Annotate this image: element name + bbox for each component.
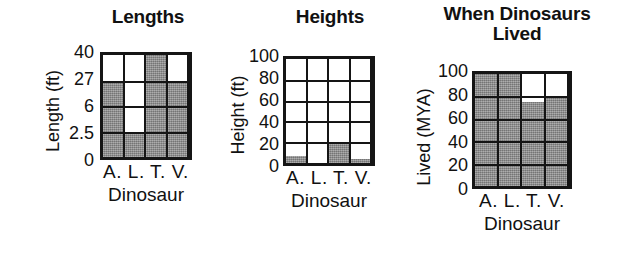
chart-when-dinosaurs-lived-title: When Dinosaurs Lived <box>422 4 612 44</box>
bar-lengths-v <box>168 81 188 158</box>
chart-heights-x-tick-labels: A. L. T. V. <box>275 167 383 188</box>
chart-heights-plot-area <box>283 56 375 166</box>
y-tick-label: 40 <box>259 116 279 128</box>
bar-column-v <box>351 59 373 163</box>
y-tick-label: 6 <box>84 100 94 112</box>
y-tick-label: 60 <box>448 112 468 124</box>
bar-column-l <box>499 74 523 186</box>
bar-heights-v <box>351 159 371 163</box>
y-tick-label: 27 <box>74 73 94 85</box>
bar-lengths-l <box>125 132 145 158</box>
bar-lived-a <box>475 74 497 186</box>
bar-column-a <box>286 59 308 163</box>
chart-lengths-y-tick-labels: 40 27 6 2.5 0 <box>46 52 94 160</box>
chart-lengths-x-tick-labels: A. L. T. V. <box>92 161 200 182</box>
bar-column-t <box>329 59 351 163</box>
y-tick-label: 2.5 <box>69 127 94 139</box>
y-tick-label: 0 <box>458 183 468 195</box>
bar-heights-t <box>329 142 349 163</box>
bar-lengths-a <box>103 81 123 158</box>
chart-heights-x-axis-label: Dinosaur <box>275 190 383 211</box>
chart-lengths-title: Lengths <box>83 7 213 27</box>
bar-lived-l <box>499 74 521 186</box>
bar-column-t <box>522 74 546 186</box>
y-tick-label: 20 <box>448 159 468 171</box>
chart-when-dinosaurs-lived-x-tick-labels: A. L. T. V. <box>468 190 576 211</box>
chart-lengths-plot-area <box>100 52 192 160</box>
y-tick-label: 20 <box>259 138 279 150</box>
y-tick-label: 60 <box>259 94 279 106</box>
chart-heights-title: Heights <box>265 7 395 27</box>
y-tick-label: 80 <box>448 89 468 101</box>
chart-when-dinosaurs-lived-plot-area <box>472 71 572 189</box>
bar-column-a <box>103 55 125 157</box>
bar-lived-v <box>546 96 568 186</box>
y-tick-label: 100 <box>249 50 279 62</box>
bar-column-a <box>475 74 499 186</box>
chart-when-dinosaurs-lived-y-tick-labels: 100 80 60 40 20 0 <box>414 71 468 189</box>
y-tick-label: 40 <box>448 136 468 148</box>
bar-column-v <box>546 74 570 186</box>
bar-column-l <box>308 59 330 163</box>
chart-when-dinosaurs-lived-x-axis-label: Dinosaur <box>468 213 576 234</box>
bar-column-l <box>125 55 147 157</box>
bar-lengths-t <box>146 55 166 157</box>
bar-heights-a <box>286 156 306 163</box>
bar-column-t <box>146 55 168 157</box>
y-tick-label: 40 <box>74 46 94 58</box>
bar-lived-t <box>522 102 544 186</box>
bar-column-v <box>168 55 190 157</box>
chart-heights-y-tick-labels: 100 80 60 40 20 0 <box>229 56 279 166</box>
chart-lengths-x-axis-label: Dinosaur <box>92 184 200 205</box>
y-tick-label: 100 <box>438 65 468 77</box>
y-tick-label: 80 <box>259 72 279 84</box>
